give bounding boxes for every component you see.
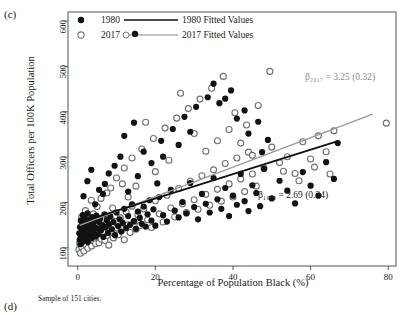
legend-linelabel-1980: 1980 Fitted Values [182, 15, 253, 25]
legend-row-2017: 2017 2017 Fitted Values [75, 27, 253, 42]
filled-circle-icon [75, 14, 101, 26]
legend-line-2017-icon [120, 29, 182, 41]
legend-line-1980-icon [120, 15, 182, 25]
legend-linelabel-2017: 2017 Fitted Values [182, 30, 253, 40]
legend-row-1980: 1980 1980 Fitted Values [75, 12, 253, 27]
open-circle-icon [75, 29, 101, 41]
legend-label-1980: 1980 [101, 15, 120, 25]
legend-label-2017: 2017 [101, 30, 120, 40]
plot-legend: 1980 1980 Fitted Values 2017 2017 Fitted… [75, 12, 253, 42]
annotation-beta-2017: β₂₀₁₇ = 3.25 (0.32) [305, 72, 375, 82]
figure-panel-c: (c) (d) Total Officers per 100K Populati… [0, 0, 407, 315]
annotation-beta-1980: β₁₉₈₀ = 2.69 (0.34) [258, 190, 328, 200]
scatter-plot-canvas [0, 0, 407, 315]
